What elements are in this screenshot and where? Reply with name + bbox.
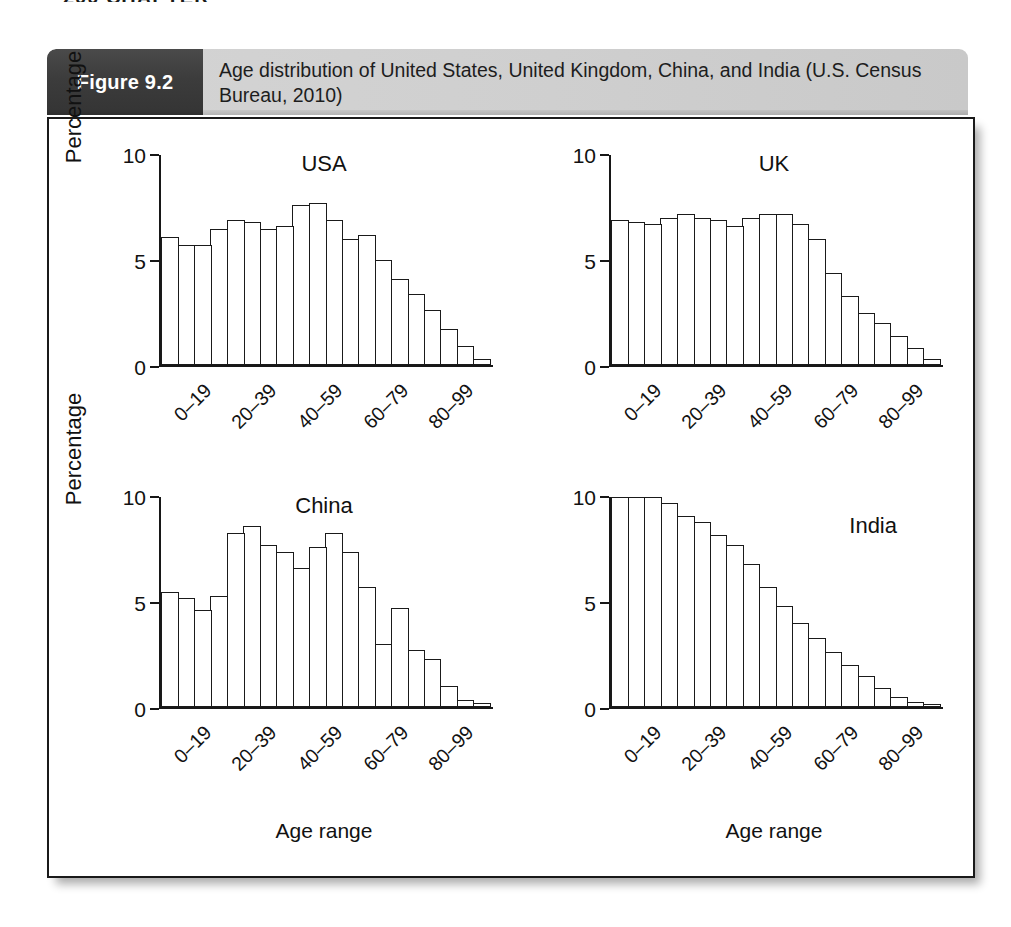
histogram-bar [923, 704, 941, 707]
histogram-bar [742, 564, 760, 707]
histogram-bar [742, 218, 760, 365]
histogram-bar [407, 650, 425, 707]
histogram-bar [808, 638, 826, 707]
histogram-bar [325, 533, 343, 707]
histogram-bar [890, 697, 908, 708]
y-axis-tick [150, 154, 159, 156]
x-axis-line [609, 707, 943, 709]
x-axis-tick-label: 20–39 [214, 721, 281, 788]
bar-series [611, 155, 939, 365]
x-axis-tick-label: 20–39 [664, 721, 731, 788]
x-axis-line [159, 365, 493, 367]
histogram-bar [709, 535, 727, 707]
y-axis-tick-label: 0 [584, 699, 596, 720]
y-axis-tick [600, 154, 609, 156]
y-axis-tick [600, 260, 609, 262]
histogram-bar [227, 220, 245, 365]
x-axis-tick-label: 80–99 [411, 721, 478, 788]
y-axis-tick [600, 366, 609, 368]
y-axis-tick-label: 0 [584, 357, 596, 378]
histogram-bar [161, 237, 179, 365]
histogram-bar [259, 229, 277, 366]
histogram-bar [759, 587, 777, 707]
y-axis-label: Percentage [61, 27, 87, 187]
histogram-bar [677, 214, 695, 365]
y-axis-tick [150, 496, 159, 498]
chart-panel-uk: 0510UK0–1920–3940–5960–7980–99 [513, 133, 963, 501]
x-axis-tick-label: 60–79 [796, 721, 863, 788]
y-axis-tick [150, 260, 159, 262]
chart-panel-india: 0510India0–1920–3940–5960–7980–99Age ran… [513, 475, 963, 867]
histogram-bar [309, 547, 327, 707]
x-axis-tick-label: 80–99 [861, 721, 928, 788]
histogram-bar [677, 516, 695, 707]
histogram-bar [791, 224, 809, 365]
figure-number-label: Figure 9.2 [77, 71, 173, 94]
histogram-bar [374, 260, 392, 365]
histogram-bar [644, 224, 662, 365]
histogram-bar [440, 329, 458, 365]
x-axis-tick-label: 40–59 [280, 721, 347, 788]
charts-grid: Percentage0510USA0–1920–3940–5960–7980–9… [49, 119, 973, 876]
y-axis-tick-label: 10 [123, 145, 146, 166]
x-axis-tick-label: 60–79 [346, 721, 413, 788]
histogram-bar [276, 226, 294, 365]
x-axis-line [159, 707, 493, 709]
x-axis-title: Age range [609, 819, 939, 843]
x-axis-tick-label: 0–19 [149, 379, 216, 446]
histogram-bar [906, 702, 924, 707]
histogram-bar [177, 598, 195, 707]
figure-caption-text: Age distribution of United States, Unite… [219, 58, 954, 108]
x-axis-tick-label: 40–59 [730, 379, 797, 446]
x-axis-tick-label: 40–59 [730, 721, 797, 788]
bar-series [611, 497, 939, 707]
histogram-bar [873, 323, 891, 365]
histogram-bar [374, 644, 392, 707]
y-axis-tick [150, 366, 159, 368]
histogram-bar [906, 348, 924, 365]
histogram-bar [890, 336, 908, 365]
x-axis-tick-label: 40–59 [280, 379, 347, 446]
histogram-bar [292, 205, 310, 365]
page-header-remnant: 200 CHAPTER [63, 0, 210, 2]
histogram-bar [325, 220, 343, 365]
histogram-bar [791, 623, 809, 707]
histogram-bar [693, 218, 711, 365]
histogram-bar [407, 294, 425, 365]
histogram-bar [194, 610, 212, 707]
x-axis-tick-label: 20–39 [664, 379, 731, 446]
histogram-bar [841, 296, 859, 365]
bar-series [161, 155, 489, 365]
y-axis-label: Percentage [61, 369, 87, 529]
x-axis-tick-label: 0–19 [599, 379, 666, 446]
histogram-bar [276, 552, 294, 707]
histogram-bar [210, 229, 228, 366]
histogram-bar [391, 608, 409, 707]
y-axis-tick [150, 602, 159, 604]
histogram-bar [473, 703, 491, 707]
histogram-bar [611, 497, 629, 707]
y-axis-tick-label: 0 [134, 357, 146, 378]
x-axis-tick-label: 0–19 [149, 721, 216, 788]
histogram-bar [358, 235, 376, 365]
histogram-bar [709, 220, 727, 365]
plot-area: 0510China [159, 497, 489, 709]
histogram-bar [161, 592, 179, 708]
histogram-bar [210, 596, 228, 707]
x-axis-tick-label: 60–79 [346, 379, 413, 446]
plot-area: 0510USA [159, 155, 489, 367]
x-axis-tick-label: 20–39 [214, 379, 281, 446]
y-axis-tick-label: 10 [573, 487, 596, 508]
histogram-bar [857, 313, 875, 366]
histogram-bar [824, 652, 842, 707]
histogram-bar [473, 359, 491, 365]
histogram-bar [456, 700, 474, 707]
x-axis-tick-label: 80–99 [411, 379, 478, 446]
histogram-bar [775, 214, 793, 365]
chart-panel-usa: Percentage0510USA0–1920–3940–5960–7980–9… [63, 133, 513, 501]
y-axis-tick-label: 5 [134, 251, 146, 272]
y-axis-tick [600, 708, 609, 710]
histogram-bar [227, 533, 245, 707]
histogram-bar [627, 497, 645, 707]
x-axis-title: Age range [159, 819, 489, 843]
